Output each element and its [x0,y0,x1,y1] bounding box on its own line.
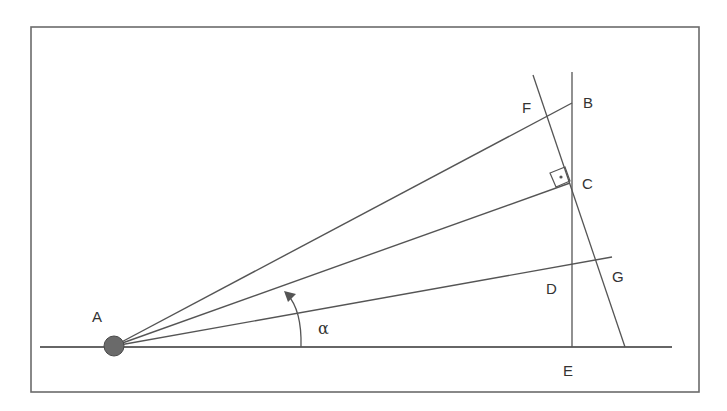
point-a-marker [104,336,124,356]
point-label-d: D [546,280,557,297]
point-label-b: B [583,94,593,111]
angle-alpha-label: α [318,319,329,338]
point-label-f: F [522,99,531,116]
angle-alpha-arc [287,294,301,347]
ray-a-to-c [114,183,570,346]
geometry-diagram: ABCDEFG α [0,0,727,411]
ray-a-to-g [114,257,612,346]
point-label-g: G [612,268,624,285]
right-angle-dot [559,175,562,178]
point-label-a: A [92,308,102,325]
point-label-c: C [582,175,593,192]
arrowhead-icon [284,291,296,302]
point-label-e: E [563,362,573,379]
ray-a-to-b [114,103,572,346]
